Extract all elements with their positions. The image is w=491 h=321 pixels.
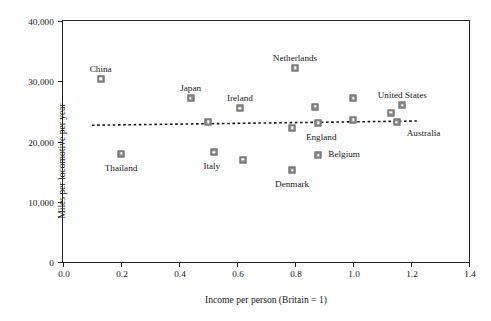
y-axis-tick: 20,000 bbox=[58, 142, 63, 143]
x-axis-tick-label: 1.4 bbox=[464, 269, 475, 279]
data-point-label: Belgium bbox=[328, 149, 360, 159]
x-axis-tick: 1.4 bbox=[469, 262, 470, 267]
data-point-marker[interactable] bbox=[350, 95, 357, 102]
data-point-label: Italy bbox=[203, 161, 220, 171]
data-point-marker-center bbox=[317, 122, 319, 124]
data-point-marker-center bbox=[99, 78, 101, 80]
data-point-label: China bbox=[90, 64, 112, 74]
data-point-marker[interactable] bbox=[315, 119, 322, 126]
data-point-marker-center bbox=[291, 169, 293, 171]
x-axis-tick-label: 1.0 bbox=[348, 269, 359, 279]
y-axis-tick-label: 40,000 bbox=[28, 17, 54, 27]
y-axis-tick-label: 20,000 bbox=[28, 138, 54, 148]
x-axis-tick-label: 0.0 bbox=[58, 269, 69, 279]
data-point-marker-center bbox=[213, 151, 215, 153]
x-axis-tick-label: 0.2 bbox=[116, 269, 127, 279]
data-point-marker-center bbox=[314, 105, 316, 107]
data-point-marker[interactable] bbox=[315, 152, 322, 159]
data-point-marker[interactable] bbox=[205, 118, 212, 125]
data-point-marker-center bbox=[207, 120, 209, 122]
x-axis-tick: 0.2 bbox=[121, 262, 122, 267]
data-point-marker[interactable] bbox=[118, 150, 125, 157]
data-point-marker-center bbox=[395, 121, 397, 123]
data-point-marker[interactable] bbox=[312, 103, 319, 110]
data-point-marker-center bbox=[352, 119, 354, 121]
data-point-marker[interactable] bbox=[399, 102, 406, 109]
data-point-marker-center bbox=[291, 126, 293, 128]
data-point-marker[interactable] bbox=[350, 116, 357, 123]
data-point-marker[interactable] bbox=[289, 167, 296, 174]
data-point-marker-center bbox=[189, 97, 191, 99]
data-point-label: Thailand bbox=[105, 163, 138, 173]
trendline bbox=[63, 21, 471, 264]
x-axis-tick-label: 0.4 bbox=[174, 269, 185, 279]
data-point-marker[interactable] bbox=[387, 109, 394, 116]
data-point-marker[interactable] bbox=[393, 119, 400, 126]
data-point-label: Denmark bbox=[275, 179, 309, 189]
data-point-label: Australia bbox=[407, 128, 441, 138]
x-axis-tick: 0.8 bbox=[295, 262, 296, 267]
data-point-marker[interactable] bbox=[210, 149, 217, 156]
data-point-marker[interactable] bbox=[239, 156, 246, 163]
x-axis-tick-label: 0.8 bbox=[290, 269, 301, 279]
y-axis-tick-label: 30,000 bbox=[28, 77, 54, 87]
data-point-label: United States bbox=[378, 90, 427, 100]
data-point-marker[interactable] bbox=[236, 105, 243, 112]
data-point-marker[interactable] bbox=[97, 75, 104, 82]
y-axis-tick-label: 0 bbox=[49, 258, 54, 268]
y-axis-tick: 40,000 bbox=[58, 21, 63, 22]
data-point-label: Japan bbox=[180, 83, 201, 93]
x-axis-tick: 0.4 bbox=[179, 262, 180, 267]
data-point-marker-center bbox=[401, 104, 403, 106]
x-axis-tick-label: 1.2 bbox=[406, 269, 417, 279]
y-axis-tick-label: 10,000 bbox=[28, 198, 54, 208]
data-point-marker-center bbox=[242, 158, 244, 160]
data-point-marker-center bbox=[317, 154, 319, 156]
data-point-marker[interactable] bbox=[289, 124, 296, 131]
data-point-label: Netherlands bbox=[273, 53, 317, 63]
x-axis-tick: 0.6 bbox=[237, 262, 238, 267]
data-point-marker-center bbox=[389, 111, 391, 113]
x-axis-tick: 1.0 bbox=[353, 262, 354, 267]
data-point-label: Ireland bbox=[227, 93, 253, 103]
plot-area: 010,00020,00030,00040,0000.00.20.40.60.8… bbox=[62, 20, 470, 263]
y-axis-tick: 10,000 bbox=[58, 202, 63, 203]
x-axis-tick: 0.0 bbox=[63, 262, 64, 267]
x-axis-tick: 1.2 bbox=[411, 262, 412, 267]
data-point-marker-center bbox=[239, 107, 241, 109]
data-point-marker-center bbox=[120, 152, 122, 154]
x-axis-tick-label: 0.6 bbox=[232, 269, 243, 279]
data-point-marker-center bbox=[294, 67, 296, 69]
x-axis-title: Income per person (Britain = 1) bbox=[62, 294, 470, 305]
scatter-chart-figure: Miles per locomotive per year 010,00020,… bbox=[0, 0, 491, 321]
data-point-marker[interactable] bbox=[292, 64, 299, 71]
data-point-marker-center bbox=[352, 97, 354, 99]
data-point-marker[interactable] bbox=[187, 95, 194, 102]
data-point-label: England bbox=[306, 132, 337, 142]
y-axis-tick: 30,000 bbox=[58, 81, 63, 82]
